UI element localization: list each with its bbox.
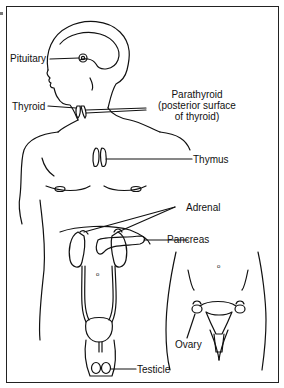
label-parathyroid-line1: Parathyroid (146, 89, 248, 100)
urinary-tract (82, 266, 116, 352)
thyroid-gland (48, 106, 146, 118)
label-parathyroid: Parathyroid (posterior surface of thyroi… (146, 89, 248, 122)
torso-outline (19, 132, 190, 340)
label-ovary: Ovary (175, 339, 202, 350)
female-pelvis-figure: o (166, 252, 266, 370)
label-pancreas: Pancreas (167, 234, 209, 245)
label-parathyroid-line2: (posterior surface (146, 100, 248, 111)
navel-mark-male: o (96, 271, 100, 277)
label-thyroid: Thyroid (12, 101, 45, 112)
thymus-gland (93, 148, 192, 167)
testicles (85, 340, 136, 376)
label-pituitary: Pituitary (10, 53, 46, 64)
label-testicle: Testicle (137, 364, 170, 375)
label-parathyroid-line3: of thyroid) (146, 111, 248, 122)
label-thymus: Thymus (193, 154, 229, 165)
label-adrenal: Adrenal (186, 202, 220, 213)
head-outline (47, 21, 160, 132)
svg-text:o: o (217, 263, 221, 269)
pituitary-gland (50, 54, 87, 62)
